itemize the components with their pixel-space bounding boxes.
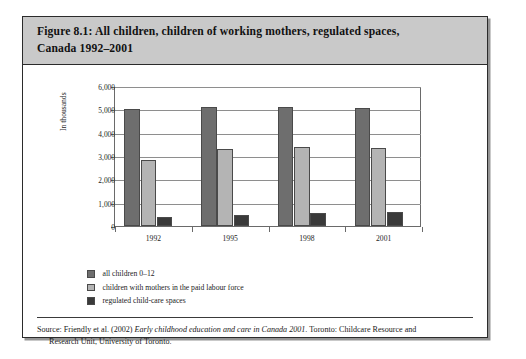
legend-item: children with mothers in the paid labour…: [87, 281, 417, 295]
y-axis-tick-label: 0: [79, 223, 115, 232]
legend-item: regulated child-care spaces: [87, 294, 417, 308]
source-line-2: Research Unit, University of Toronto.: [37, 336, 473, 348]
figure-box: Figure 8.1: All children, children of wo…: [22, 16, 488, 338]
x-axis-tick-mark: [422, 227, 423, 232]
chart-plot-wrapper: In thousands 6,0005,0004,0003,0002,0001,…: [81, 87, 421, 245]
x-axis-tick-mark: [192, 227, 193, 232]
chart-plot-area: 6,0005,0004,0003,0002,0001,0000199219951…: [114, 87, 421, 227]
bar-group: [201, 86, 249, 226]
x-axis-tick-label: 1998: [269, 234, 346, 243]
y-axis-tick-label: 4,000: [79, 130, 115, 139]
y-axis-tick-label: 5,000: [79, 106, 115, 115]
bar: [310, 213, 326, 226]
x-axis-tick-mark: [115, 227, 116, 232]
source-prefix: Source: Friendly et al. (2002): [37, 325, 135, 334]
bar: [278, 107, 294, 226]
legend-swatch-icon: [87, 270, 95, 278]
bar-group: [124, 86, 172, 226]
figure-title-band: Figure 8.1: All children, children of wo…: [23, 17, 487, 65]
figure-title-line-2: Canada 1992–2001: [37, 42, 133, 55]
bar: [201, 107, 217, 226]
bar: [294, 147, 310, 226]
y-axis-tick-label: 2,000: [79, 176, 115, 185]
bar: [387, 212, 403, 226]
bar: [124, 109, 140, 226]
legend-label: regulated child-care spaces: [103, 296, 186, 305]
bar: [217, 149, 233, 226]
chart-legend: all children 0–12children with mothers i…: [87, 267, 417, 308]
page-title: Figure 8.1: All children, children of wo…: [37, 24, 473, 57]
legend-swatch-icon: [87, 297, 95, 305]
legend-item: all children 0–12: [87, 267, 417, 281]
legend-swatch-icon: [87, 284, 95, 292]
x-axis-tick-label: 1995: [192, 234, 269, 243]
bar: [234, 215, 250, 226]
source-work-title: Early childhood education and care in Ca…: [135, 325, 306, 334]
bar-group: [355, 86, 403, 226]
source-suffix: . Toronto: Childcare Resource and: [305, 325, 416, 334]
legend-label: all children 0–12: [103, 269, 155, 278]
legend-label: children with mothers in the paid labour…: [103, 283, 244, 292]
y-axis-tick-label: 3,000: [79, 153, 115, 162]
y-axis-tick-label: 6,000: [79, 83, 115, 92]
chart-region: In thousands 6,0005,0004,0003,0002,0001,…: [23, 65, 487, 337]
source-note: Source: Friendly et al. (2002) Early chi…: [37, 324, 473, 347]
bar-group: [278, 86, 326, 226]
x-axis-tick-mark: [345, 227, 346, 232]
figure-title-line-1: Figure 8.1: All children, children of wo…: [37, 25, 400, 38]
bar: [371, 148, 387, 226]
source-divider: [37, 317, 473, 318]
x-axis-tick-label: 1992: [115, 234, 192, 243]
bar: [157, 217, 173, 226]
y-axis-label: In thousands: [59, 92, 68, 131]
bar: [141, 160, 157, 227]
y-axis-tick-label: 1,000: [79, 200, 115, 209]
x-axis-tick-mark: [269, 227, 270, 232]
bar: [355, 108, 371, 226]
x-axis-tick-label: 2001: [345, 234, 422, 243]
